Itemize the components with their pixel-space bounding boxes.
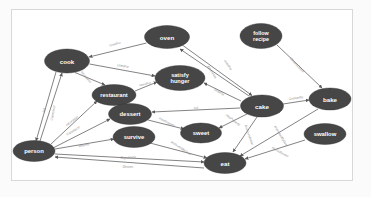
graph-node-swallow[interactable]: swallow bbox=[304, 124, 346, 145]
node-label: person bbox=[24, 148, 44, 154]
edge-label: UsedFor bbox=[117, 63, 130, 69]
node-label: oven bbox=[160, 34, 175, 41]
edge-label: HasProperty bbox=[225, 113, 241, 127]
node-label: survive bbox=[124, 134, 145, 140]
graph-node-survive[interactable]: survive bbox=[113, 127, 155, 148]
graph-edge bbox=[40, 73, 62, 141]
edge-label: IsA bbox=[194, 106, 199, 110]
edge-label: IsA bbox=[42, 107, 47, 112]
node-label: sweet bbox=[193, 130, 209, 136]
graph-edge bbox=[283, 100, 309, 104]
edge-label: HasProperty bbox=[158, 116, 176, 127]
edge-label: CapableOf bbox=[50, 104, 57, 120]
graph-node-dessert[interactable]: dessert bbox=[109, 104, 152, 125]
edge-label: Desires bbox=[123, 165, 134, 169]
node-label: dessert bbox=[120, 111, 141, 117]
graph-node-cake[interactable]: cake bbox=[241, 95, 284, 117]
graph-node-restaurant[interactable]: restaurant bbox=[92, 85, 136, 106]
edge-label: AtLocation bbox=[206, 64, 218, 80]
edge-label: AtLocation bbox=[79, 69, 92, 84]
node-label: bake bbox=[323, 96, 338, 103]
node-label: restaurant bbox=[100, 92, 127, 98]
knowledge-graph: UsedForUsedForAtLocationUsedForUsedForAt… bbox=[0, 0, 371, 197]
node-label: swallow bbox=[314, 131, 337, 137]
graph-node-oven[interactable]: oven bbox=[145, 26, 190, 49]
edge-label: Desires bbox=[78, 142, 90, 148]
edge-label: CapableOf bbox=[121, 156, 137, 160]
edge-label: CreatedBy bbox=[288, 95, 303, 101]
node-label: cook bbox=[60, 58, 75, 65]
node-label: recipe bbox=[253, 36, 269, 42]
graph-node-bake[interactable]: bake bbox=[309, 88, 351, 110]
edge-label: ReceivesAction bbox=[243, 124, 254, 146]
edge-label: MotivatedByGoal bbox=[170, 140, 192, 156]
node-label: cake bbox=[255, 103, 269, 110]
graph-node-person[interactable]: person bbox=[13, 141, 55, 162]
node-label: eat bbox=[221, 160, 230, 167]
graph-node-sweet[interactable]: sweet bbox=[181, 123, 222, 143]
edge-label: UsedFor bbox=[213, 87, 226, 97]
diagram-canvas: UsedForUsedForAtLocationUsedForUsedForAt… bbox=[0, 0, 371, 197]
edge-label: UsedFor bbox=[223, 59, 234, 72]
edge-label: CausesDesire bbox=[289, 56, 305, 73]
graph-node-cook[interactable]: cook bbox=[45, 49, 90, 73]
graph-node-follow_recipe[interactable]: followrecipe bbox=[240, 24, 282, 49]
edge-label: UsedFor bbox=[109, 40, 122, 47]
edge-label: UsedFor bbox=[139, 81, 152, 88]
graph-node-satisfy_hunger[interactable]: satisfyhunger bbox=[155, 66, 205, 91]
node-label: hunger bbox=[171, 78, 191, 84]
graph-node-eat[interactable]: eat bbox=[204, 153, 246, 174]
